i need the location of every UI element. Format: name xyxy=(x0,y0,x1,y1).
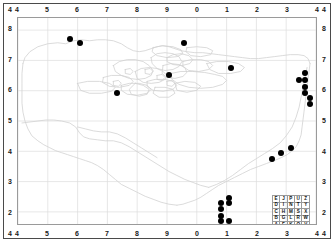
legend-cell: J xyxy=(280,196,287,203)
data-point-marker xyxy=(218,206,224,212)
legend-cell: P xyxy=(287,196,294,203)
y-tick-label-left: 3 xyxy=(5,178,15,185)
legend-row: AFKQV xyxy=(273,222,310,225)
legend-cell: L xyxy=(287,215,294,222)
y-tick-label-right: 3 xyxy=(319,178,329,185)
legend-row: CHMSX xyxy=(273,209,310,216)
data-point-marker xyxy=(166,72,172,78)
x-tick-label-bottom: 1 xyxy=(220,230,234,237)
data-point-marker xyxy=(302,84,308,90)
x-tick-label-bottom: 7 xyxy=(100,230,114,237)
x-tick-label-top: 0 xyxy=(190,6,204,13)
legend-cell: B xyxy=(273,215,280,222)
data-point-marker xyxy=(228,65,234,71)
legend-letter-grid: EJPUZDINTYCHMSXBGLRWAFKQV xyxy=(272,195,310,225)
data-points xyxy=(18,18,316,224)
legend-cell: I xyxy=(280,202,287,209)
legend-cell: W xyxy=(302,215,310,222)
data-point-marker xyxy=(226,218,232,224)
x-tick-label-top: 6 xyxy=(70,6,84,13)
x-tick-label-bottom: 3 xyxy=(280,230,294,237)
legend-cell: K xyxy=(287,222,294,225)
data-point-marker xyxy=(288,145,294,151)
legend-row: BGLRW xyxy=(273,215,310,222)
x-tick-label-bottom: 8 xyxy=(130,230,144,237)
corner-tick-label: 4 xyxy=(5,230,15,237)
data-point-marker xyxy=(181,40,187,46)
x-tick-label-bottom: 5 xyxy=(40,230,54,237)
legend-cell: Z xyxy=(302,196,310,203)
x-tick-label-bottom: 0 xyxy=(190,230,204,237)
legend-cell: M xyxy=(287,209,294,216)
y-tick-label-left: 8 xyxy=(5,25,15,32)
legend-cell: D xyxy=(273,202,280,209)
legend-cell: E xyxy=(273,196,280,203)
corner-tick-label: 4 xyxy=(319,6,329,13)
y-tick-label-left: 4 xyxy=(5,148,15,155)
data-point-marker xyxy=(218,200,224,206)
corner-tick-label: 4 xyxy=(5,6,15,13)
legend-cell: V xyxy=(302,222,310,225)
x-tick-label-top: 8 xyxy=(130,6,144,13)
legend-cell: H xyxy=(280,209,287,216)
data-point-marker xyxy=(269,156,275,162)
data-point-marker xyxy=(302,77,308,83)
legend-cell: U xyxy=(295,196,302,203)
y-tick-label-left: 6 xyxy=(5,86,15,93)
x-tick-label-top: 3 xyxy=(280,6,294,13)
data-point-marker xyxy=(77,40,83,46)
data-point-marker xyxy=(226,200,232,206)
legend-cell: A xyxy=(273,222,280,225)
y-tick-label-right: 8 xyxy=(319,25,329,32)
y-tick-label-left: 7 xyxy=(5,56,15,63)
legend-cell: C xyxy=(273,209,280,216)
y-tick-label-right: 6 xyxy=(319,86,329,93)
legend-cell: S xyxy=(295,209,302,216)
legend-cell: F xyxy=(280,222,287,225)
data-point-marker xyxy=(302,70,308,76)
data-point-marker xyxy=(307,95,313,101)
legend-cell: R xyxy=(295,215,302,222)
data-point-marker xyxy=(218,218,224,224)
legend-cell: G xyxy=(280,215,287,222)
x-tick-label-top: 1 xyxy=(220,6,234,13)
legend-cell: Q xyxy=(295,222,302,225)
y-tick-label-left: 2 xyxy=(5,209,15,216)
y-tick-label-right: 5 xyxy=(319,117,329,124)
x-tick-label-bottom: 6 xyxy=(70,230,84,237)
x-tick-label-top: 5 xyxy=(40,6,54,13)
x-tick-label-top: 2 xyxy=(250,6,264,13)
data-point-marker xyxy=(307,101,313,107)
legend-cell: Y xyxy=(302,202,310,209)
x-tick-label-top: 9 xyxy=(160,6,174,13)
corner-tick-label: 4 xyxy=(319,230,329,237)
y-tick-label-right: 4 xyxy=(319,148,329,155)
legend-cell: T xyxy=(295,202,302,209)
y-tick-label-right: 7 xyxy=(319,56,329,63)
legend-cell: N xyxy=(287,202,294,209)
y-tick-label-left: 5 xyxy=(5,117,15,124)
data-point-marker xyxy=(114,90,120,96)
x-tick-label-bottom: 2 xyxy=(250,230,264,237)
x-tick-label-top: 7 xyxy=(100,6,114,13)
legend-cell: X xyxy=(302,209,310,216)
y-tick-label-right: 2 xyxy=(319,209,329,216)
x-tick-label-bottom: 9 xyxy=(160,230,174,237)
plot-area: EJPUZDINTYCHMSXBGLRWAFKQV xyxy=(17,17,317,225)
data-point-marker xyxy=(67,36,73,42)
distribution-map-figure: EJPUZDINTYCHMSXBGLRWAFKQV 45678901234456… xyxy=(0,0,334,242)
legend-row: DINTY xyxy=(273,202,310,209)
data-point-marker xyxy=(278,150,284,156)
legend-row: EJPUZ xyxy=(273,196,310,203)
